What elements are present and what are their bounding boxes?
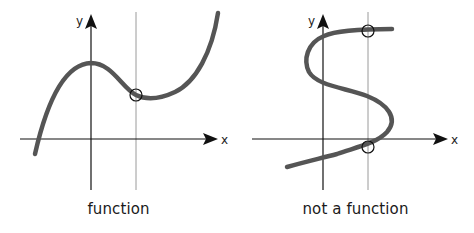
- y-axis-label: y: [308, 14, 315, 28]
- caption-not-a-function: not a function: [237, 200, 474, 218]
- x-axis-label: x: [451, 133, 458, 147]
- relation-graph: x y: [237, 0, 474, 233]
- y-axis-label: y: [76, 14, 83, 28]
- function-curve: [35, 13, 218, 154]
- x-axis-label: x: [221, 133, 228, 147]
- s-curve: [287, 29, 392, 167]
- caption-function: function: [0, 200, 237, 218]
- panel-not-a-function: x y not a function: [237, 0, 474, 233]
- panel-function: x y function: [0, 0, 237, 233]
- function-graph: x y: [0, 0, 237, 233]
